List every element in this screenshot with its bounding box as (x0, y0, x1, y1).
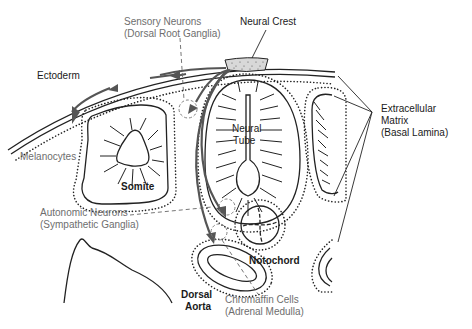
label-melanocytes: Melanocytes (20, 151, 76, 162)
svg-text:Autonomic Neurons: Autonomic Neurons (40, 207, 128, 218)
svg-text:Tube: Tube (233, 135, 256, 146)
svg-text:Sensory Neurons: Sensory Neurons (124, 16, 201, 27)
svg-text:(Sympathetic Ganglia): (Sympathetic Ganglia) (40, 219, 139, 230)
svg-text:Chromaffin Cells: Chromaffin Cells (225, 294, 299, 305)
label-chromaffin-cells: Chromaffin Cells (Adrenal Medulla) (225, 294, 304, 317)
svg-text:(Adrenal Medulla): (Adrenal Medulla) (225, 306, 304, 317)
neural-tube (198, 74, 308, 232)
somite (73, 98, 176, 212)
svg-text:Matrix: Matrix (381, 115, 408, 126)
lower-right-structure (312, 240, 332, 292)
label-autonomic-neurons: Autonomic Neurons (Sympathetic Ganglia) (40, 207, 139, 230)
melanocyte-path-upper (160, 68, 226, 75)
label-ectoderm: Ectoderm (37, 70, 80, 81)
label-neural-crest: Neural Crest (240, 16, 296, 27)
label-notochord: Notochord (249, 255, 300, 266)
neural-crest (225, 58, 268, 72)
label-extracellular-matrix: Extracellular Matrix (Basal Lamina) (381, 103, 448, 138)
label-neural-tube: Neural Tube (232, 123, 261, 146)
svg-text:(Dorsal Root Ganglia): (Dorsal Root Ganglia) (124, 28, 221, 39)
svg-text:Neural: Neural (232, 123, 261, 134)
label-somite: Somite (121, 181, 155, 192)
label-dorsal-aorta: Dorsal Aorta (181, 289, 212, 312)
label-sensory-neurons: Sensory Neurons (Dorsal Root Ganglia) (124, 16, 221, 39)
svg-text:(Basal Lamina): (Basal Lamina) (381, 127, 448, 138)
right-somite (304, 88, 346, 203)
neural-crest-diagram: Sensory Neurons (Dorsal Root Ganglia) Ne… (0, 0, 472, 329)
svg-text:Dorsal: Dorsal (181, 289, 212, 300)
svg-text:Extracellular: Extracellular (381, 103, 437, 114)
ectoderm (8, 69, 335, 160)
body-wall-contour (64, 239, 172, 303)
svg-text:Aorta: Aorta (185, 301, 212, 312)
